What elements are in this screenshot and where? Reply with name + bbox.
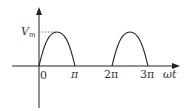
vm-label: Vm bbox=[21, 25, 36, 39]
tick-label-2pi: 2π bbox=[104, 68, 118, 81]
sine-hump-2 bbox=[112, 32, 148, 66]
y-axis-arrow-icon bbox=[36, 7, 42, 15]
waveform-diagram: Vm 0 π 2π 3π ωt bbox=[0, 0, 186, 111]
tick-label-3pi: 3π bbox=[140, 68, 154, 81]
origin-label: 0 bbox=[40, 69, 47, 82]
tick-label-pi: π bbox=[70, 68, 79, 81]
sine-hump-1 bbox=[39, 32, 75, 66]
x-axis-label: ωt bbox=[163, 68, 177, 81]
